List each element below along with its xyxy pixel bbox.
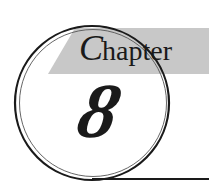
chapter-label: Chapter bbox=[79, 30, 172, 66]
chapter-heading-graphic: Chapter 8 bbox=[0, 0, 209, 189]
chapter-label-rest: hapter bbox=[102, 35, 172, 66]
chapter-label-initial: C bbox=[79, 28, 102, 68]
